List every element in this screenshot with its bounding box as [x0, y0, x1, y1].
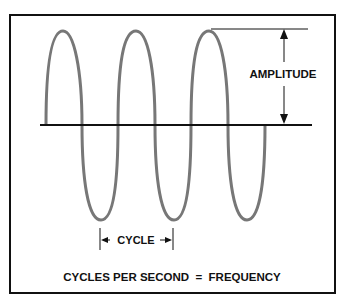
- diagram-frame: [10, 15, 335, 293]
- frequency-caption: CYCLES PER SECOND = FREQUENCY: [63, 271, 281, 283]
- cycle-label: CYCLE: [117, 234, 154, 246]
- sine-wave-diagram: AMPLITUDE CYCLE CYCLES PER SECOND = FREQ…: [0, 0, 346, 303]
- amplitude-label: AMPLITUDE: [249, 68, 316, 80]
